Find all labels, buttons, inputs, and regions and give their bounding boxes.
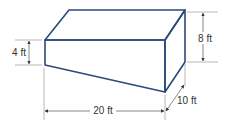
dimension-4ft: 4 ft [10,40,42,65]
label-10ft: 10 ft [177,95,197,106]
front-face [45,40,165,92]
right-face [165,10,185,92]
top-face [45,10,185,40]
label-8ft: 8 ft [198,33,212,44]
dimension-8ft: 8 ft [187,12,218,62]
prism-solid [45,10,185,92]
label-4ft: 4 ft [12,47,26,58]
dimension-20ft: 20 ft [44,68,165,120]
prism-diagram: 4 ft 8 ft 20 ft 10 ft [0,0,229,130]
dimension-10ft: 10 ft [166,64,197,111]
label-20ft: 20 ft [93,105,113,116]
